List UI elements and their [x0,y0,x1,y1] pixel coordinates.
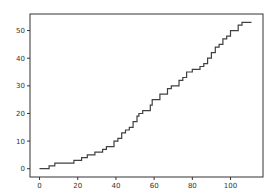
y-tick-label: 0 [21,165,25,173]
x-tick-label: 0 [37,182,41,190]
x-tick-label: 20 [73,182,82,190]
axes-frame [30,14,263,177]
x-tick-label: 80 [188,182,197,190]
y-tick-label: 50 [16,27,25,35]
y-tick-label: 10 [16,138,25,146]
x-tick-label: 100 [224,182,237,190]
y-tick-label: 40 [16,55,25,63]
y-tick-label: 20 [16,110,25,118]
y-axis-ticks: 01020304050 [16,27,30,173]
plot-area [30,14,263,177]
data-line [40,22,252,168]
x-axis-ticks: 020406080100 [37,177,237,190]
y-tick-label: 30 [16,82,25,90]
x-tick-label: 60 [150,182,159,190]
line-chart: 020406080100 01020304050 [0,0,279,192]
x-tick-label: 40 [111,182,120,190]
